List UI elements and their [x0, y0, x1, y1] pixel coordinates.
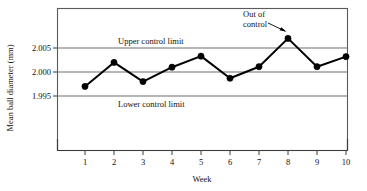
xtick-label-5: 5	[199, 157, 203, 167]
data-point	[343, 54, 349, 60]
data-point	[82, 83, 88, 89]
data-point	[198, 53, 204, 59]
y-axis-title: Mean ball diameter (mm)	[5, 44, 15, 131]
control-chart: 2.005 2.000 1.995 Mean ball diameter (mm…	[0, 0, 367, 191]
xtick-label-2: 2	[112, 157, 116, 167]
ytick-label-2000: 2.000	[32, 67, 51, 77]
data-point	[111, 59, 117, 65]
data-point	[314, 64, 320, 70]
lower-control-limit-label: Lower control limit	[118, 99, 185, 109]
xtick-label-3: 3	[141, 157, 145, 167]
xtick-label-7: 7	[257, 157, 261, 167]
data-point	[140, 79, 146, 85]
x-axis-title: Week	[192, 174, 212, 184]
xtick-label-1: 1	[83, 157, 87, 167]
data-point	[256, 64, 262, 70]
upper-control-limit-label: Upper control limit	[118, 36, 184, 46]
xtick-label-6: 6	[228, 157, 232, 167]
ytick-label-2005: 2.005	[32, 43, 51, 53]
out-of-control-label-line1: Out of	[243, 9, 265, 19]
out-of-control-label-line2: control	[243, 19, 268, 29]
data-point	[285, 35, 291, 41]
chart-canvas: 2.005 2.000 1.995 Mean ball diameter (mm…	[0, 0, 367, 191]
xtick-label-9: 9	[315, 157, 319, 167]
data-point	[227, 75, 233, 81]
ytick-label-1995: 1.995	[32, 91, 51, 101]
xtick-label-10: 10	[342, 157, 351, 167]
xtick-label-8: 8	[286, 157, 290, 167]
data-point	[169, 64, 175, 70]
